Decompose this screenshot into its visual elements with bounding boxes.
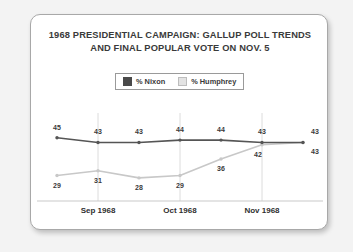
value-label-humphrey-5: 42 — [254, 151, 262, 158]
point-nixon-2 — [137, 141, 140, 144]
point-humphrey-3 — [178, 174, 181, 177]
point-nixon-6 — [301, 141, 304, 144]
page-title: 1968 PRESIDENTIAL CAMPAIGN: GALLUP POLL … — [41, 29, 319, 55]
point-nixon-3 — [178, 138, 181, 141]
value-label-nixon-0: 45 — [53, 124, 61, 131]
legend-label-nixon: % Nixon — [136, 77, 165, 86]
chart-title-line-2: AND FINAL POPULAR VOTE ON NOV. 5 — [41, 42, 319, 55]
legend-swatch-humphrey-icon — [178, 77, 187, 86]
legend-item-nixon[interactable]: % Nixon — [123, 77, 165, 86]
value-label-nixon-6: 43 — [311, 128, 319, 135]
value-label-nixon-1: 43 — [94, 128, 102, 135]
value-label-humphrey-4: 36 — [217, 165, 225, 172]
x-tick-label-0: Sep 1968 — [81, 206, 116, 215]
x-tick-label-2: Nov 1968 — [244, 206, 280, 215]
value-label-nixon-3: 44 — [176, 126, 184, 133]
value-label-nixon-2: 43 — [135, 128, 143, 135]
value-label-humphrey-3: 29 — [176, 182, 184, 189]
point-nixon-0 — [55, 136, 58, 139]
x-axis-tick-labels: Sep 1968Oct 1968Nov 1968 — [81, 206, 280, 215]
chart-card: 1968 PRESIDENTIAL CAMPAIGN: GALLUP POLL … — [30, 14, 328, 230]
point-nixon-1 — [96, 141, 99, 144]
point-humphrey-2 — [137, 176, 140, 179]
value-label-humphrey-2: 28 — [135, 184, 143, 191]
chart-title-line-1: 1968 PRESIDENTIAL CAMPAIGN: GALLUP POLL … — [49, 30, 311, 40]
value-label-humphrey-6: 43 — [311, 148, 319, 155]
value-label-humphrey-1: 31 — [94, 177, 102, 184]
point-humphrey-1 — [96, 169, 99, 172]
value-label-nixon-5: 43 — [258, 128, 266, 135]
point-nixon-5 — [260, 141, 263, 144]
legend-swatch-nixon-icon — [123, 77, 132, 86]
point-nixon-4 — [219, 138, 222, 141]
chart-legend: % Nixon % Humphrey — [115, 73, 244, 90]
legend-item-humphrey[interactable]: % Humphrey — [178, 77, 236, 86]
line-chart-svg: 4543434444434329312829364243 Sep 1968Oct… — [33, 111, 327, 227]
chart-plot-area: 4543434444434329312829364243 Sep 1968Oct… — [33, 111, 327, 227]
point-humphrey-0 — [55, 174, 58, 177]
point-humphrey-4 — [219, 157, 222, 160]
legend-label-humphrey: % Humphrey — [191, 77, 236, 86]
value-label-nixon-4: 44 — [217, 126, 225, 133]
value-label-humphrey-0: 29 — [53, 182, 61, 189]
x-tick-label-1: Oct 1968 — [163, 206, 197, 215]
value-labels: 4543434444434329312829364243 — [53, 124, 319, 191]
